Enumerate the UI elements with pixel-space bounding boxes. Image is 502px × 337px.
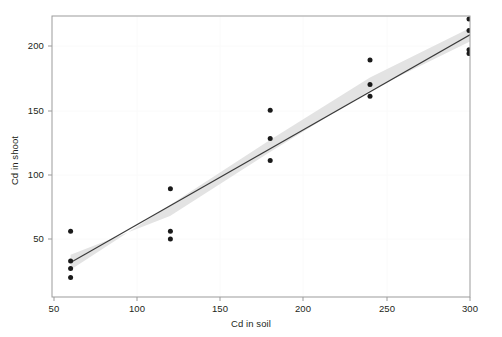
data-point xyxy=(68,266,73,271)
scatter-plot-figure: 50 100 150 200 250 300 50 100 150 200 Cd… xyxy=(0,0,502,337)
y-tick-label: 100 xyxy=(28,169,44,180)
data-point xyxy=(467,28,472,33)
data-point xyxy=(68,275,73,280)
y-tick-label: 150 xyxy=(28,105,44,116)
data-point xyxy=(168,237,173,242)
y-tick-labels: 50 100 150 200 xyxy=(28,40,44,244)
y-tick-label: 50 xyxy=(33,233,44,244)
data-point xyxy=(368,94,373,99)
x-tick-marks xyxy=(54,297,470,301)
data-point xyxy=(168,229,173,234)
x-axis-title: Cd in soil xyxy=(0,318,502,329)
y-tick-marks xyxy=(48,46,52,239)
y-tick-label: 200 xyxy=(28,40,44,51)
x-tick-labels: 50 100 150 200 250 300 xyxy=(49,303,478,314)
x-tick-label: 200 xyxy=(295,303,311,314)
x-tick-label: 100 xyxy=(129,303,145,314)
data-point xyxy=(68,258,73,263)
data-point xyxy=(268,108,273,113)
data-point xyxy=(268,158,273,163)
x-tick-label: 250 xyxy=(379,303,395,314)
data-point xyxy=(368,82,373,87)
chart-canvas: 50 100 150 200 250 300 50 100 150 200 xyxy=(0,0,502,337)
data-point xyxy=(268,136,273,141)
x-tick-label: 150 xyxy=(212,303,228,314)
data-point xyxy=(467,16,472,21)
y-axis-title: Cd in shoot xyxy=(9,101,20,221)
x-tick-label: 50 xyxy=(49,303,60,314)
x-tick-label: 300 xyxy=(462,303,478,314)
data-point xyxy=(467,51,472,56)
data-point xyxy=(68,229,73,234)
data-point xyxy=(368,58,373,63)
data-point xyxy=(168,186,173,191)
